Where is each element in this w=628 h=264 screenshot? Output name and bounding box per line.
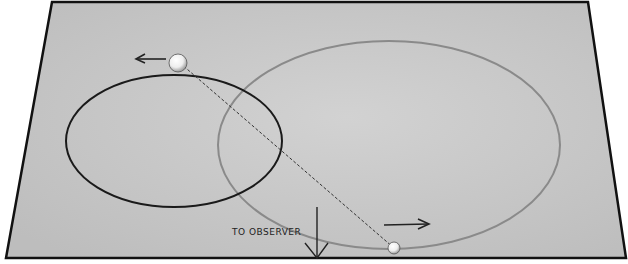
orbital-plane xyxy=(6,2,626,258)
binary-orbit-diagram: TO OBSERVER xyxy=(0,0,628,264)
star-lower-right xyxy=(388,242,400,254)
star-upper-left xyxy=(169,54,187,72)
observer-label: TO OBSERVER xyxy=(231,227,301,237)
